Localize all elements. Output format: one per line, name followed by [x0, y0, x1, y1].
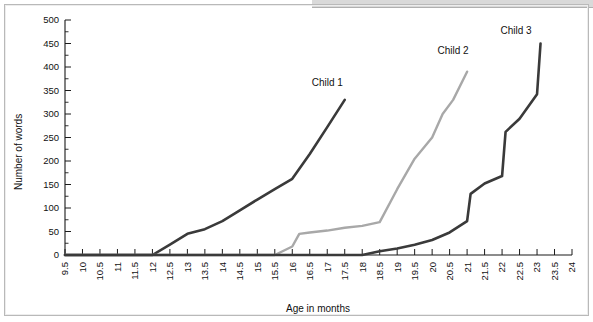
x-tick-label: 14	[217, 262, 228, 273]
y-tick-label: 150	[43, 179, 59, 190]
y-tick-label: 350	[43, 85, 59, 96]
x-tick-label: 23	[531, 262, 542, 273]
y-axis-title: Number of words	[13, 114, 24, 190]
x-tick-label: 16	[287, 262, 298, 273]
y-tick-label: 100	[43, 202, 59, 213]
y-tick-label: 400	[43, 61, 59, 72]
x-tick-label: 22.5	[514, 262, 525, 281]
x-tick-label: 14.5	[234, 262, 245, 281]
x-tick-label: 12	[147, 262, 158, 273]
x-tick-label: 20.5	[444, 262, 455, 281]
y-axis-ticks: 050100150200250300350400450500	[43, 14, 71, 260]
axis-lines	[65, 20, 572, 255]
series-line-1	[65, 100, 345, 255]
series-line-3	[65, 44, 541, 256]
series-line-2	[65, 72, 467, 255]
figure-container: 050100150200250300350400450500 9.51010.5…	[0, 0, 593, 322]
x-tick-label: 19.5	[409, 262, 420, 281]
x-tick-label: 16.5	[304, 262, 315, 281]
x-tick-label: 11	[112, 262, 123, 272]
x-tick-label: 13.5	[199, 262, 210, 281]
x-tick-label: 23.5	[549, 262, 560, 281]
x-tick-label: 17.5	[339, 262, 350, 281]
series-lines	[65, 44, 541, 256]
x-tick-label: 18	[357, 262, 368, 273]
x-tick-label: 22	[496, 262, 507, 273]
x-tick-label: 11.5	[129, 262, 140, 280]
series-labels: Child 1Child 2Child 3	[312, 25, 532, 88]
x-tick-label: 10	[77, 262, 88, 273]
y-tick-label: 450	[43, 38, 59, 49]
x-tick-label: 13	[182, 262, 193, 273]
line-chart: 050100150200250300350400450500 9.51010.5…	[0, 0, 593, 322]
y-tick-label: 250	[43, 132, 59, 143]
x-axis-title: Age in months	[286, 303, 350, 314]
y-tick-label: 0	[54, 249, 59, 260]
x-tick-label: 15.5	[269, 262, 280, 281]
x-tick-label: 10.5	[94, 262, 105, 281]
series-label-1: Child 1	[312, 77, 344, 88]
x-tick-label: 18.5	[374, 262, 385, 281]
x-tick-label: 24	[566, 262, 577, 273]
x-tick-label: 21.5	[479, 262, 490, 281]
y-tick-label: 200	[43, 155, 59, 166]
y-tick-label: 300	[43, 108, 59, 119]
x-tick-label: 9.5	[59, 262, 70, 275]
x-tick-label: 19	[392, 262, 403, 273]
x-tick-label: 21	[462, 262, 473, 273]
x-tick-label: 12.5	[164, 262, 175, 281]
x-tick-label: 15	[252, 262, 263, 273]
y-tick-label: 50	[48, 226, 59, 237]
x-tick-label: 17	[322, 262, 333, 273]
series-label-2: Child 2	[438, 45, 470, 56]
y-tick-label: 500	[43, 14, 59, 25]
series-label-3: Child 3	[500, 25, 532, 36]
x-tick-label: 20	[427, 262, 438, 273]
